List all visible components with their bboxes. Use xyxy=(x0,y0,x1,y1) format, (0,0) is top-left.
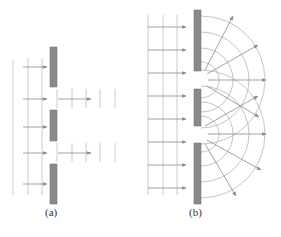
diffraction-diagram xyxy=(0,0,281,237)
incident-arrows xyxy=(148,27,186,188)
transmitted-wavefronts xyxy=(57,89,115,162)
panel-b xyxy=(148,10,266,204)
incident-wavefronts xyxy=(13,58,42,195)
diffracted-arrows xyxy=(205,16,266,196)
panel-a-label: (a) xyxy=(45,206,57,218)
incident-arrows xyxy=(23,67,47,184)
barrier xyxy=(50,47,57,204)
panel-b-label: (b) xyxy=(189,206,202,218)
panel-a xyxy=(13,47,115,204)
incident-wavefronts xyxy=(148,15,177,195)
barrier xyxy=(194,10,201,204)
